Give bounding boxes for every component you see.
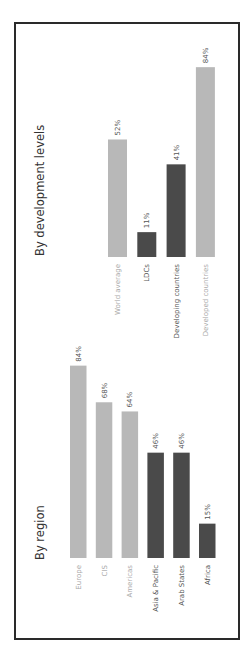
category-label-americas: Americas xyxy=(126,565,134,598)
category-label-ldcs: LDCs xyxy=(143,264,151,282)
bar-world-average xyxy=(108,139,127,257)
category-label-cis: CIS xyxy=(101,564,109,576)
category-label-world-average: World average xyxy=(114,264,122,315)
category-label-africa: Africa xyxy=(204,565,212,585)
value-label-ldcs: 11% xyxy=(143,212,151,228)
chart-title: By region xyxy=(33,505,47,560)
value-label-world-average: 52% xyxy=(114,120,122,136)
region-chart: By region84%Europe68%CIS64%Americas46%As… xyxy=(33,346,216,612)
value-label-developing-countries: 41% xyxy=(173,144,181,160)
value-label-europe: 84% xyxy=(75,346,83,362)
category-label-arab-states: Arab States xyxy=(178,565,186,606)
chart-title: By development levels xyxy=(33,125,47,256)
value-label-asia-pacific: 46% xyxy=(152,433,160,449)
development-levels-chart: By development levels52%World average11%… xyxy=(33,47,215,338)
value-label-arab-states: 46% xyxy=(178,433,186,449)
bar-asia-pacific xyxy=(147,453,164,558)
bar-africa xyxy=(199,524,216,558)
value-label-developed-countries: 84% xyxy=(202,47,210,63)
category-label-developing-countries: Developing countries xyxy=(173,264,181,339)
bar-americas xyxy=(122,411,139,558)
category-label-asia-pacific: Asia & Pacific xyxy=(152,565,160,612)
bar-developed-countries xyxy=(196,67,215,257)
category-label-developed-countries: Developed countries xyxy=(202,264,210,337)
value-label-cis: 68% xyxy=(101,382,109,398)
value-label-americas: 64% xyxy=(126,392,134,408)
bar-arab-states xyxy=(173,453,190,558)
value-label-africa: 15% xyxy=(204,504,212,520)
chart-svg: By development levels52%World average11%… xyxy=(0,0,250,662)
category-label-europe: Europe xyxy=(75,565,83,590)
bar-europe xyxy=(70,366,87,558)
bar-ldcs xyxy=(137,232,156,257)
bar-cis xyxy=(96,402,113,558)
bar-developing-countries xyxy=(167,164,186,257)
